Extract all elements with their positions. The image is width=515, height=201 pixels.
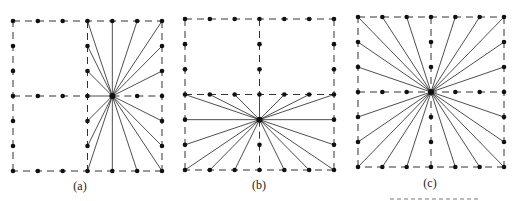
- panel-c-ray-line: [407, 92, 431, 167]
- panel-b-grid-node: [307, 17, 312, 22]
- panel-b-ray-line: [185, 95, 260, 120]
- panel-b-grid-node: [257, 17, 262, 22]
- panel-a-center-node: [109, 93, 115, 99]
- panel-c-grid-node: [502, 165, 507, 170]
- panel-a-ray-line: [112, 96, 137, 171]
- panel-c-ray-line: [431, 17, 455, 92]
- panel-b-ray-line: [210, 120, 260, 170]
- panel-b-grid-node: [332, 67, 337, 72]
- panel-c-ray-line: [358, 92, 431, 117]
- panel-b-grid-node: [307, 92, 312, 97]
- panel-a-grid-node: [160, 144, 165, 149]
- panel-b-grid-node: [183, 168, 188, 173]
- panel-a-ray-line: [112, 96, 162, 171]
- panel-c: (c): [356, 15, 507, 190]
- panel-a-grid-node: [160, 119, 165, 124]
- panel-a-ray-line: [88, 46, 113, 96]
- panel-c-grid-node: [429, 165, 434, 170]
- panel-c-grid-node: [453, 90, 458, 95]
- panel-c-grid-node: [356, 15, 361, 20]
- panel-c-ray-line: [358, 92, 431, 142]
- panel-c-grid-node: [477, 90, 482, 95]
- panel-b-grid-node: [257, 92, 262, 97]
- panel-a-grid-node: [85, 19, 90, 24]
- panel-c-grid-node: [404, 15, 409, 20]
- panel-c-label: (c): [423, 176, 436, 190]
- panel-a-grid-node: [85, 94, 90, 99]
- panel-c-ray-line: [431, 42, 504, 92]
- panel-a-ray-line: [112, 21, 137, 96]
- panel-b-grid-node: [282, 168, 287, 173]
- panel-a-grid-node: [85, 119, 90, 124]
- panel-c-grid-node: [502, 140, 507, 145]
- panel-c-grid-node: [380, 15, 385, 20]
- panel-a-grid-node: [85, 44, 90, 49]
- panel-c-grid-node: [429, 15, 434, 20]
- panel-c-ray-line: [431, 92, 504, 142]
- panel-a-grid-node: [160, 69, 165, 74]
- panel-a-ray-line: [88, 21, 113, 96]
- panel-a-ray-line: [112, 46, 162, 96]
- panel-c-grid-node: [502, 15, 507, 20]
- panel-a-ray-line: [88, 96, 113, 171]
- panel-c-grid-node: [502, 90, 507, 95]
- panel-b-grid-node: [257, 168, 262, 173]
- panel-c-grid-node: [380, 165, 385, 170]
- panel-c-ray-line: [431, 17, 504, 92]
- panel-c-grid-node: [356, 165, 361, 170]
- panel-c-grid-node: [404, 90, 409, 95]
- panel-c-grid-node: [429, 140, 434, 145]
- panel-b-grid-node: [332, 92, 337, 97]
- panel-a-grid-node: [11, 169, 16, 174]
- panel-c-ray-line: [382, 17, 431, 92]
- panel-b-grid-node: [257, 67, 262, 72]
- panel-a-grid-node: [85, 144, 90, 149]
- panel-c-ray-line: [358, 67, 431, 92]
- panel-a-grid-node: [110, 169, 115, 174]
- panel-c-grid-node: [477, 15, 482, 20]
- panel-b-ray-line: [260, 95, 310, 120]
- panel-c-ray-line: [431, 92, 455, 167]
- panel-b-grid-node: [183, 67, 188, 72]
- panel-a-grid-node: [60, 169, 65, 174]
- panel-b-ray-line: [185, 120, 260, 170]
- panel-c-grid-node: [502, 40, 507, 45]
- panel-b-grid-node: [257, 42, 262, 47]
- panel-c-grid-node: [356, 90, 361, 95]
- panel-b-ray-line: [185, 120, 260, 145]
- panel-a-ray-line: [112, 96, 162, 146]
- panel-c-ray-line: [431, 92, 504, 117]
- panel-b-grid-node: [183, 143, 188, 148]
- panel-b-ray-line: [260, 95, 335, 120]
- panel-c-grid-node: [502, 115, 507, 120]
- panel-c-grid-node: [453, 15, 458, 20]
- panel-a-grid-node: [135, 94, 140, 99]
- panel-c-grid-node: [356, 115, 361, 120]
- panel-c-grid-node: [404, 165, 409, 170]
- panel-a-grid-node: [160, 94, 165, 99]
- panel-b-grid-node: [332, 143, 337, 148]
- panel-b-grid-node: [183, 17, 188, 22]
- panel-c-ray-line: [358, 17, 431, 92]
- panel-b-label: (b): [252, 178, 266, 192]
- panel-c-ray-line: [382, 92, 431, 167]
- panel-b-grid-node: [282, 92, 287, 97]
- panel-b-grid-node: [232, 92, 237, 97]
- panel-b: (b): [183, 17, 337, 192]
- panel-a-grid-node: [60, 94, 65, 99]
- panel-c-ray-line: [431, 17, 480, 92]
- panel-a-grid-node: [135, 169, 140, 174]
- panel-b-ray-line: [260, 120, 310, 170]
- panel-b-grid-node: [208, 168, 213, 173]
- panel-b-grid-node: [282, 17, 287, 22]
- panel-a-grid-node: [160, 44, 165, 49]
- panel-b-grid-node: [232, 168, 237, 173]
- panel-b-grid-node: [257, 143, 262, 148]
- panel-a-label: (a): [73, 179, 86, 193]
- panel-b-grid-node: [332, 17, 337, 22]
- panel-c-grid-node: [356, 40, 361, 45]
- panel-b-grid-node: [208, 17, 213, 22]
- panel-c-grid-node: [356, 140, 361, 145]
- panel-c-ray-line: [407, 17, 431, 92]
- panel-b-grid-node: [183, 92, 188, 97]
